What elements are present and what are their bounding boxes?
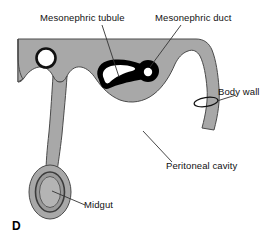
mesonephric-duct-structure — [137, 60, 159, 82]
panel-letter: D — [12, 219, 21, 233]
label-peritoneal-cavity: Peritoneal cavity — [166, 160, 237, 171]
label-body-wall: Body wall — [218, 86, 260, 97]
label-mesonephric-tubule: Mesonephric tubule — [40, 12, 125, 23]
midgut-lumen — [40, 177, 61, 208]
anatomy-diagram-svg — [0, 0, 264, 243]
mesonephric-duct-lumen — [144, 68, 152, 76]
neural-tube-ring-icon — [37, 49, 56, 68]
label-mesonephric-duct: Mesonephric duct — [155, 12, 232, 23]
label-midgut: Midgut — [84, 199, 113, 210]
figure-panel: Mesonephric tubule Mesonephric duct Body… — [0, 0, 264, 243]
